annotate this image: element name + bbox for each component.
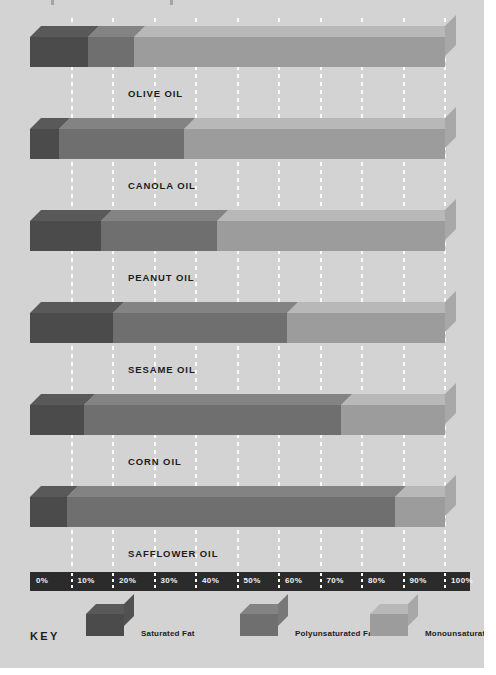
axis-tick-mark-90 <box>403 573 405 590</box>
x-axis-scale: 0%10%20%30%40%50%60%70%80%90%100% <box>30 572 470 591</box>
swatch-front-face <box>86 614 124 636</box>
segment-front-face <box>113 313 287 343</box>
swatch-right-face <box>278 594 288 626</box>
bar-segment-polyunsaturated-fat <box>59 129 184 159</box>
bar-segment-polyunsaturated-fat <box>84 405 341 435</box>
segment-right-face <box>445 199 456 240</box>
bar-segment-saturated-fat <box>30 497 67 527</box>
axis-tick-label-40: 40% <box>202 576 219 585</box>
bar-segment-saturated-fat <box>30 221 101 251</box>
crop-mark-icon <box>51 0 54 5</box>
axis-tick-mark-100 <box>444 573 446 590</box>
axis-tick-label-100: 100% <box>451 576 473 585</box>
axis-tick-mark-10 <box>71 573 73 590</box>
segment-front-face <box>84 405 341 435</box>
chart-legend: KEY Saturated FatPolyunsaturated FatMono… <box>0 600 484 668</box>
segment-front-face <box>30 129 59 159</box>
segment-top-face <box>59 118 195 129</box>
segment-top-face <box>30 210 112 221</box>
bar-segment-saturated-fat <box>30 129 59 159</box>
legend-title: KEY <box>30 630 60 642</box>
crop-mark-icon <box>170 0 173 5</box>
legend-item-label: Monounsaturated Fat <box>425 629 484 638</box>
segment-front-face <box>184 129 445 159</box>
segment-front-face <box>88 37 134 67</box>
segment-front-face <box>341 405 445 435</box>
swatch-front-face <box>370 614 408 636</box>
segment-right-face <box>445 475 456 516</box>
stacked-bar <box>30 210 445 256</box>
page-right-margin <box>484 0 496 675</box>
bar-segment-monounsaturated-fat <box>395 497 445 527</box>
bar-label: CORN OIL <box>0 456 484 467</box>
segment-front-face <box>67 497 395 527</box>
bar-segment-monounsaturated-fat <box>217 221 445 251</box>
segment-top-face <box>30 26 99 37</box>
legend-item-label: Polyunsaturated Fat <box>295 629 376 638</box>
chart-page: OLIVE OILCANOLA OILPEANUT OILSESAME OILC… <box>0 0 484 668</box>
bar-segment-polyunsaturated-fat <box>88 37 134 67</box>
bar-label-text: SESAME OIL <box>128 364 196 375</box>
segment-front-face <box>217 221 445 251</box>
segment-right-face <box>445 15 456 56</box>
bar-segment-monounsaturated-fat <box>184 129 445 159</box>
stacked-bar <box>30 302 445 348</box>
bar-label-text: SAFFLOWER OIL <box>128 548 218 559</box>
bar-label-text: CORN OIL <box>128 456 182 467</box>
bar-segment-polyunsaturated-fat <box>67 497 395 527</box>
axis-tick-label-0: 0% <box>36 576 48 585</box>
segment-front-face <box>30 37 88 67</box>
segment-front-face <box>134 37 445 67</box>
segment-top-face <box>84 394 352 405</box>
segment-top-face <box>184 118 456 129</box>
axis-tick-label-90: 90% <box>410 576 427 585</box>
swatch-right-face <box>124 594 134 626</box>
segment-top-face <box>134 26 456 37</box>
axis-tick-label-70: 70% <box>327 576 344 585</box>
segment-front-face <box>30 497 67 527</box>
axis-tick-label-30: 30% <box>161 576 178 585</box>
stacked-bar <box>30 486 445 532</box>
axis-tick-label-20: 20% <box>119 576 136 585</box>
bar-segment-saturated-fat <box>30 37 88 67</box>
segment-top-face <box>30 394 95 405</box>
bar-label-text: OLIVE OIL <box>128 88 183 99</box>
bar-label: SAFFLOWER OIL <box>0 548 484 559</box>
segment-front-face <box>30 221 101 251</box>
stacked-bar <box>30 118 445 164</box>
bar-segment-polyunsaturated-fat <box>101 221 217 251</box>
axis-tick-mark-80 <box>361 573 363 590</box>
axis-tick-mark-50 <box>237 573 239 590</box>
segment-top-face <box>341 394 456 405</box>
bar-segment-monounsaturated-fat <box>134 37 445 67</box>
legend-swatch-icon <box>370 614 408 636</box>
stacked-bar <box>30 394 445 440</box>
bar-label: SESAME OIL <box>0 364 484 375</box>
bar-label-text: CANOLA OIL <box>128 180 196 191</box>
segment-top-face <box>67 486 406 497</box>
segment-right-face <box>445 383 456 424</box>
bar-segment-saturated-fat <box>30 313 113 343</box>
segment-top-face <box>101 210 228 221</box>
segment-right-face <box>445 291 456 332</box>
legend-swatch-icon <box>86 614 124 636</box>
segment-front-face <box>395 497 445 527</box>
axis-tick-mark-40 <box>195 573 197 590</box>
axis-tick-label-50: 50% <box>244 576 261 585</box>
segment-front-face <box>287 313 445 343</box>
axis-tick-mark-60 <box>278 573 280 590</box>
segment-front-face <box>59 129 184 159</box>
page-bottom-margin <box>0 668 496 675</box>
bar-segment-polyunsaturated-fat <box>113 313 287 343</box>
segment-top-face <box>217 210 456 221</box>
legend-item-label: Saturated Fat <box>141 629 195 638</box>
axis-tick-label-60: 60% <box>285 576 302 585</box>
segment-right-face <box>445 107 456 148</box>
plot-area: OLIVE OILCANOLA OILPEANUT OILSESAME OILC… <box>0 18 484 570</box>
legend-swatch-icon <box>240 614 278 636</box>
axis-tick-mark-20 <box>112 573 114 590</box>
bar-segment-monounsaturated-fat <box>341 405 445 435</box>
axis-tick-mark-30 <box>154 573 156 590</box>
swatch-right-face <box>408 594 418 626</box>
segment-front-face <box>30 313 113 343</box>
